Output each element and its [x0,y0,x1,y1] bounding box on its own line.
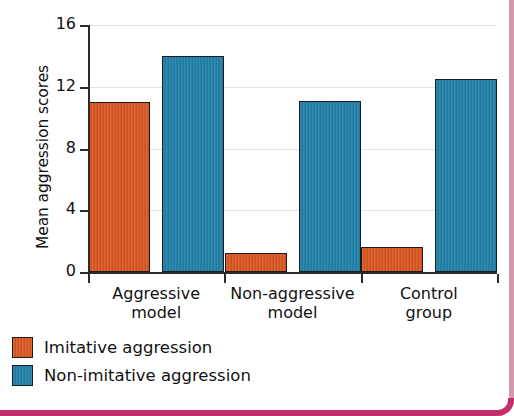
bar-nonimitative-group-1 [162,56,224,272]
plot-area [88,25,497,272]
y-tick-label-wrap: 16 [32,16,76,32]
x-category-label-line: model [78,303,234,322]
y-tick-label: 0 [36,263,76,279]
x-category-label: Non-aggressivemodel [214,284,370,322]
legend-label: Imitative aggression [44,338,212,357]
x-category-label: Aggressivemodel [78,284,234,322]
legend-item-imitative: Imitative aggression [12,333,412,361]
x-category-label-line: Aggressive [78,284,234,303]
y-tick-mark [80,87,89,89]
x-tick-mark [224,274,226,283]
bar-imitative-group-1 [88,102,150,272]
x-tick-mark [88,274,90,283]
y-tick-label: 4 [36,201,76,217]
x-category-label: Controlgroup [351,284,507,322]
chart-legend: Imitative aggressionNon-imitative aggres… [12,333,412,389]
y-tick-label-wrap: 4 [32,201,76,217]
legend-item-nonimitative: Non-imitative aggression [12,361,412,389]
y-tick-label: 8 [36,140,76,156]
y-tick-label-wrap: 8 [32,140,76,156]
bar-imitative-group-3 [361,247,423,272]
legend-label: Non-imitative aggression [44,366,251,385]
x-category-label-line: model [214,303,370,322]
x-category-label-line: Non-aggressive [214,284,370,303]
bar-nonimitative-group-3 [435,79,497,272]
y-tick-mark [80,149,89,151]
page-edge-bottom [0,398,514,416]
x-axis-line [88,272,497,274]
y-tick-label: 16 [36,16,76,32]
x-tick-mark [361,274,363,283]
y-tick-label: 12 [36,78,76,94]
bar-imitative-group-2 [225,253,287,272]
bar-nonimitative-group-2 [299,101,361,272]
y-tick-label-wrap: 0 [32,263,76,279]
x-category-label-line: Control [351,284,507,303]
x-category-label-line: group [351,303,507,322]
page-edge-right [504,0,514,404]
y-tick-mark [80,25,89,27]
y-tick-mark [80,210,89,212]
y-axis-title: Mean aggression scores [34,32,52,282]
x-tick-mark [497,274,499,283]
gridline [88,25,497,26]
y-tick-label-wrap: 12 [32,78,76,94]
legend-swatch-nonimitative [12,365,33,386]
legend-swatch-imitative [12,337,33,358]
page-frame: Mean aggression scores 0481216 Aggressiv… [0,0,514,416]
